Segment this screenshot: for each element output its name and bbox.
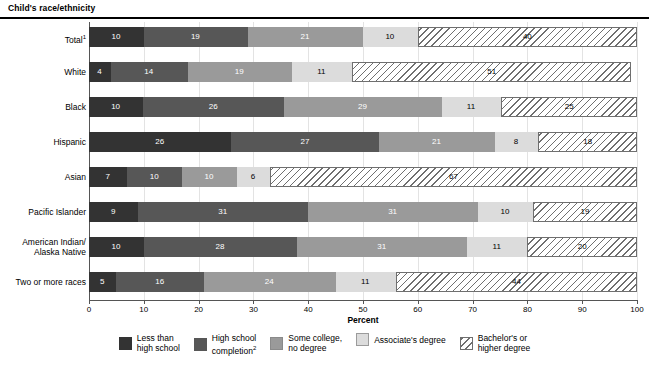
row-label: Asian xyxy=(0,172,86,182)
stacked-bar: 71010667 xyxy=(89,167,637,187)
chart-row: Hispanic262721818 xyxy=(89,132,637,152)
bar-segment: 27 xyxy=(231,132,379,152)
bar-segment: 4 xyxy=(89,62,111,82)
legend-swatch-icon xyxy=(270,337,283,350)
legend-label: Less thanhigh school xyxy=(137,333,180,353)
tick-mark-40 xyxy=(308,300,309,304)
bar-segment: 18 xyxy=(538,132,637,152)
bar-segment: 67 xyxy=(270,167,637,187)
legend-label: Some college,no degree xyxy=(288,333,342,353)
stacked-bar: 516241144 xyxy=(89,272,637,292)
bar-segment: 5 xyxy=(89,272,116,292)
tick-mark-100 xyxy=(637,300,638,304)
legend-swatch-icon xyxy=(356,333,369,346)
bar-segment: 11 xyxy=(336,272,396,292)
bar-segment: 40 xyxy=(418,27,637,47)
stacked-bar: 1026291125 xyxy=(89,97,637,117)
bar-segment: 26 xyxy=(89,132,231,152)
row-label: American Indian/Alaska Native xyxy=(0,237,86,257)
legend-label: High schoolcompletion2 xyxy=(212,333,256,356)
chart-row: Total11019211040 xyxy=(89,27,637,47)
bar-segment: 10 xyxy=(182,167,237,187)
bar-segment: 19 xyxy=(533,202,637,222)
bar-segment: 31 xyxy=(297,237,467,257)
tick-mark-0 xyxy=(89,300,90,304)
bar-segment: 10 xyxy=(363,27,418,47)
tick-label-40: 40 xyxy=(304,305,313,314)
row-label: White xyxy=(0,67,86,77)
legend-swatch-icon xyxy=(194,338,207,351)
tick-mark-60 xyxy=(418,300,419,304)
stacked-bar: 414191151 xyxy=(89,62,637,82)
header-divider xyxy=(0,17,649,19)
tick-label-70: 70 xyxy=(468,305,477,314)
bar-segment: 44 xyxy=(396,272,637,292)
bar-segment: 19 xyxy=(188,62,292,82)
stacked-bar: 1019211040 xyxy=(89,27,637,47)
tick-label-80: 80 xyxy=(523,305,532,314)
legend-label: Bachelor's orhigher degree xyxy=(478,333,530,353)
page-title: Child's race/ethnicity xyxy=(8,3,95,13)
chart-row: Asian71010667 xyxy=(89,167,637,187)
bar-segment: 10 xyxy=(89,97,143,117)
chart-legend: Less thanhigh schoolHigh schoolcompletio… xyxy=(0,333,649,356)
stacked-bar: 931311019 xyxy=(89,202,637,222)
legend-label: Associate's degree xyxy=(374,335,446,345)
row-label: Total1 xyxy=(0,32,86,45)
chart-row: Two or more races516241144 xyxy=(89,272,637,292)
tick-label-90: 90 xyxy=(578,305,587,314)
bar-segment: 14 xyxy=(111,62,188,82)
bar-segment: 8 xyxy=(495,132,539,152)
bar-segment: 11 xyxy=(467,237,527,257)
row-label: Hispanic xyxy=(0,137,86,147)
chart-row: American Indian/Alaska Native1028311120 xyxy=(89,237,637,257)
tick-mark-20 xyxy=(199,300,200,304)
bar-segment: 11 xyxy=(292,62,352,82)
bar-segment: 7 xyxy=(89,167,127,187)
tick-mark-80 xyxy=(527,300,528,304)
tick-mark-70 xyxy=(473,300,474,304)
bar-segment: 25 xyxy=(501,97,637,117)
legend-swatch-icon xyxy=(119,337,132,350)
stacked-bar: 262721818 xyxy=(89,132,637,152)
tick-mark-90 xyxy=(582,300,583,304)
tick-mark-10 xyxy=(144,300,145,304)
bar-segment: 9 xyxy=(89,202,138,222)
legend-item-bachelors-or-higher[interactable]: Bachelor's orhigher degree xyxy=(460,333,530,353)
tick-label-50: 50 xyxy=(359,305,368,314)
tick-label-60: 60 xyxy=(413,305,422,314)
chart-row: Pacific Islander931311019 xyxy=(89,202,637,222)
bar-segment: 31 xyxy=(308,202,478,222)
bar-segment: 10 xyxy=(89,237,144,257)
tick-mark-30 xyxy=(253,300,254,304)
legend-swatch-icon xyxy=(460,337,473,350)
legend-item-associates-degree[interactable]: Associate's degree xyxy=(356,333,446,346)
row-label: Black xyxy=(0,102,86,112)
bar-segment: 21 xyxy=(379,132,494,152)
tick-label-100: 100 xyxy=(630,305,643,314)
chart-row: White414191151 xyxy=(89,62,637,82)
stacked-bar: 1028311120 xyxy=(89,237,637,257)
tick-label-0: 0 xyxy=(87,305,91,314)
legend-item-high-school-completion[interactable]: High schoolcompletion2 xyxy=(194,333,256,356)
row-label: Pacific Islander xyxy=(0,207,86,217)
bar-segment: 20 xyxy=(527,237,637,257)
gridline-100 xyxy=(637,22,638,300)
bar-segment: 19 xyxy=(144,27,248,47)
row-label: Two or more races xyxy=(0,277,86,287)
bar-segment: 29 xyxy=(284,97,441,117)
bar-segment: 28 xyxy=(144,237,297,257)
bar-segment: 16 xyxy=(116,272,204,292)
chart-row: Black1026291125 xyxy=(89,97,637,117)
chart-plot-area: 0102030405060708090100 Total11019211040W… xyxy=(89,22,637,300)
legend-item-some-college-no-degree[interactable]: Some college,no degree xyxy=(270,333,342,353)
legend-item-less-than-high-school[interactable]: Less thanhigh school xyxy=(119,333,180,353)
bar-segment: 31 xyxy=(138,202,308,222)
bar-segment: 24 xyxy=(204,272,336,292)
tick-mark-50 xyxy=(363,300,364,304)
bar-segment: 6 xyxy=(237,167,270,187)
bar-segment: 51 xyxy=(352,62,631,82)
bar-segment: 10 xyxy=(478,202,533,222)
tick-label-20: 20 xyxy=(194,305,203,314)
x-axis-title: Percent xyxy=(89,315,637,325)
